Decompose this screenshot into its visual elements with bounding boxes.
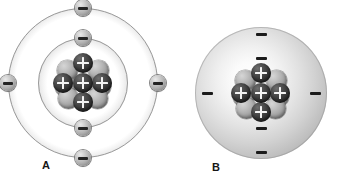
electron-inner-bottom xyxy=(75,120,91,136)
electron-mark-right xyxy=(310,92,321,95)
electron-outer-bottom xyxy=(75,150,91,166)
proton-center xyxy=(251,83,271,103)
panel-label-a: A xyxy=(42,160,50,171)
proton-top xyxy=(251,63,271,83)
panel-label-b: B xyxy=(212,162,220,173)
electron-outer-left xyxy=(0,75,16,91)
nucleus-a xyxy=(54,54,112,112)
proton-bottom xyxy=(251,102,271,122)
electron-mark-top-inner xyxy=(256,57,267,60)
proton-top xyxy=(73,53,93,73)
proton-left xyxy=(231,83,251,103)
proton-left xyxy=(53,73,73,93)
proton-bottom xyxy=(73,92,93,112)
nucleus-b xyxy=(232,64,290,122)
electron-inner-top xyxy=(75,30,91,46)
diagram-panel-a: A xyxy=(0,0,173,183)
electron-mark-left xyxy=(202,92,213,95)
diagram-panel-b: B xyxy=(173,0,346,183)
proton-right xyxy=(92,73,112,93)
electron-outer-right xyxy=(150,75,166,91)
proton-right xyxy=(270,83,290,103)
electron-outer-top xyxy=(75,0,91,16)
electron-mark-bottom-inner xyxy=(256,127,267,130)
proton-center xyxy=(73,73,93,93)
figure-canvas: A B xyxy=(0,0,346,183)
electron-mark-bottom-outer xyxy=(256,151,267,154)
electron-mark-top-outer xyxy=(256,33,267,36)
